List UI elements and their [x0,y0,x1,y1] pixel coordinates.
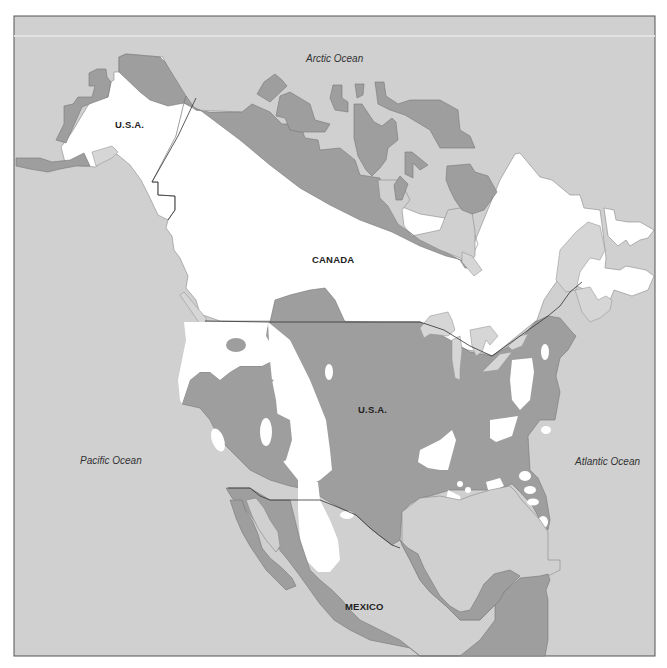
north-america-map: Arctic Ocean Pacific Ocean Atlantic Ocea… [0,0,667,668]
southeast-white-4 [527,499,539,506]
central-white-spot [325,364,333,380]
gulf-white-spot-1 [457,481,463,487]
southeast-white-2 [519,471,531,481]
south-west-white-spot [340,511,354,519]
arctic-ocean-label: Arctic Ocean [305,53,364,64]
atlantic-ocean-label: Atlantic Ocean [574,456,640,467]
southeast-white-1 [541,426,551,434]
gulf-white-spot-2 [465,487,471,493]
west-lake-1 [226,338,246,352]
pacific-ocean-label: Pacific Ocean [80,455,142,466]
west-white-pocket-1 [260,418,272,446]
alaska-label: U.S.A. [115,119,144,130]
southeast-white-3 [524,486,536,494]
canada-label: CANADA [312,254,354,265]
usa-label: U.S.A. [358,404,387,415]
maine-white [541,344,549,360]
mexico-label: MEXICO [345,601,384,612]
